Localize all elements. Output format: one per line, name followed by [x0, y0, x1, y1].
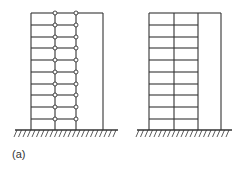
- ground-hatch: [150, 130, 153, 137]
- structural-frames-diagram: [0, 0, 246, 174]
- ground-hatch: [113, 130, 116, 137]
- ground-hatch: [145, 130, 148, 137]
- ground-hatch: [28, 130, 31, 137]
- ground-hatch: [64, 130, 67, 137]
- hinge-icon: [53, 82, 57, 86]
- ground-hatch: [109, 130, 112, 137]
- hinge-icon: [74, 46, 78, 50]
- hinge-icon: [53, 70, 57, 74]
- ground-hatch: [213, 130, 216, 137]
- ground-hatch: [86, 130, 89, 137]
- hinge-icon: [53, 117, 57, 121]
- ground-hatch: [217, 130, 220, 137]
- hinge-icon: [53, 46, 57, 50]
- ground-hatch: [55, 130, 58, 137]
- ground-hatch: [82, 130, 85, 137]
- ground-hatch: [204, 130, 207, 137]
- ground-hatch: [190, 130, 193, 137]
- ground-hatch: [41, 130, 44, 137]
- hinge-icon: [74, 35, 78, 39]
- ground-hatch: [50, 130, 53, 137]
- ground-hatch: [136, 130, 139, 137]
- ground-hatch: [199, 130, 202, 137]
- ground-hatch: [181, 130, 184, 137]
- ground-hatch: [37, 130, 40, 137]
- ground-hatch: [91, 130, 94, 137]
- ground-hatch: [32, 130, 35, 137]
- hinge-icon: [74, 58, 78, 62]
- hinge-icon: [53, 93, 57, 97]
- ground-hatch: [104, 130, 107, 137]
- ground-hatch: [95, 130, 98, 137]
- ground-hatch: [168, 130, 171, 137]
- ground-hatch: [154, 130, 157, 137]
- figure-caption: (a): [12, 148, 25, 160]
- ground-hatch: [77, 130, 80, 137]
- hinge-icon: [53, 105, 57, 109]
- ground-hatch: [195, 130, 198, 137]
- ground-hatch: [19, 130, 22, 137]
- hinge-icon: [74, 70, 78, 74]
- hinge-icon: [74, 105, 78, 109]
- ground-hatch: [208, 130, 211, 137]
- hinge-icon: [53, 23, 57, 27]
- ground-hatch: [46, 130, 49, 137]
- ground-hatch: [68, 130, 71, 137]
- hinge-icon: [74, 93, 78, 97]
- ground-hatch: [14, 130, 17, 137]
- hinge-icon: [53, 11, 57, 15]
- hinged-frame: [14, 11, 118, 137]
- ground-hatch: [141, 130, 144, 137]
- hinge-icon: [74, 82, 78, 86]
- ground-hatch: [59, 130, 62, 137]
- ground-hatch: [159, 130, 162, 137]
- ground-hatch: [163, 130, 166, 137]
- ground-hatch: [100, 130, 103, 137]
- ground-hatch: [172, 130, 175, 137]
- rigid-frame: [136, 13, 232, 137]
- ground-hatch: [23, 130, 26, 137]
- ground-hatch: [186, 130, 189, 137]
- hinge-icon: [53, 35, 57, 39]
- ground-hatch: [226, 130, 229, 137]
- ground-hatch: [222, 130, 225, 137]
- hinge-icon: [74, 117, 78, 121]
- hinge-icon: [74, 23, 78, 27]
- hinge-icon: [74, 11, 78, 15]
- hinge-icon: [53, 58, 57, 62]
- ground-hatch: [73, 130, 76, 137]
- ground-hatch: [177, 130, 180, 137]
